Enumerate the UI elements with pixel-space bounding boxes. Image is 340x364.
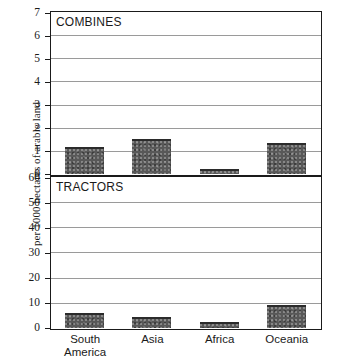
y-axis-tick-label: 50 [14, 196, 40, 208]
gridline [51, 35, 321, 36]
bar-south-america-tractors [65, 313, 104, 328]
y-axis-tick [45, 13, 51, 14]
gridline [51, 105, 321, 106]
y-axis-tick-label: 2 [14, 121, 40, 133]
bar-africa-combines [200, 169, 239, 174]
panel-title-combines: COMBINES [56, 15, 122, 29]
x-axis-category-label-south-america: SouthAmerica [52, 333, 119, 359]
gridline [51, 58, 321, 59]
bar-oceania-tractors [267, 305, 306, 328]
bar-africa-tractors [200, 322, 239, 328]
gridline [51, 303, 321, 304]
y-axis-tick-label: 6 [14, 29, 40, 41]
gridline [51, 252, 321, 253]
gridline [51, 227, 321, 228]
y-axis-tick-label: 4 [14, 75, 40, 87]
y-axis-tick-label: 60 [14, 171, 40, 183]
y-axis-tick-label: 40 [14, 221, 40, 233]
gridline [51, 128, 321, 129]
chart-figure: per 1000 hectares of arable land COMBINE… [0, 0, 340, 364]
y-axis-tick [45, 328, 51, 329]
bar-asia-tractors [132, 317, 171, 328]
gridline [51, 81, 321, 82]
x-axis-category-label-oceania: Oceania [253, 333, 320, 346]
bar-oceania-combines [267, 143, 306, 174]
x-axis-category-label-africa: Africa [186, 333, 253, 346]
y-axis-tick-label: 0 [14, 321, 40, 333]
bar-asia-combines [132, 139, 171, 174]
gridline [51, 202, 321, 203]
panel-title-tractors: TRACTORS [56, 180, 123, 194]
y-axis-tick [45, 174, 51, 175]
y-axis-tick-label: 7 [14, 6, 40, 18]
y-axis-tick-label: 3 [14, 98, 40, 110]
y-axis-tick-label: 10 [14, 296, 40, 308]
x-axis-category-label-asia: Asia [119, 333, 186, 346]
gridline [51, 278, 321, 279]
panel-combines: COMBINES [50, 11, 322, 176]
y-axis-tick-label: 5 [14, 52, 40, 64]
y-axis-tick-label: 30 [14, 246, 40, 258]
y-axis-tick [45, 178, 51, 179]
y-axis-tick-label: 1 [14, 144, 40, 156]
panel-tractors: TRACTORS [50, 176, 322, 330]
bar-south-america-combines [65, 147, 104, 174]
y-axis-tick-label: 20 [14, 271, 40, 283]
